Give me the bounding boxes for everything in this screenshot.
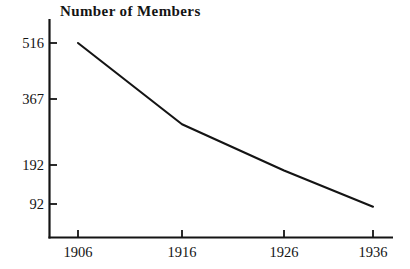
data-series-line [78, 43, 373, 207]
plot-area [0, 0, 410, 269]
chart-figure: Number of Members 516 367 192 92 1906 19… [0, 0, 410, 269]
